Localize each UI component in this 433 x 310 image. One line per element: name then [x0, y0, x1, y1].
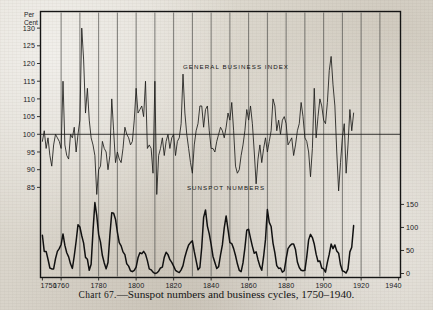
left-tick-label-115: 115 — [23, 77, 35, 86]
left-tick-label-120: 120 — [23, 59, 35, 68]
right-axis-ticks: 150100500 — [401, 200, 419, 278]
caption-chart-number: Chart 67. — [79, 290, 117, 300]
general-business-index-label: GENERAL BUSINESS INDEX — [183, 63, 289, 70]
general-business-index-line — [42, 28, 353, 194]
left-tick-label-85: 85 — [27, 183, 35, 192]
left-axis-title-line1: Per — [24, 11, 35, 18]
left-tick-label-105: 105 — [23, 112, 35, 121]
right-tick-label-50: 50 — [406, 246, 414, 255]
right-tick-label-0: 0 — [406, 269, 410, 278]
decadal-gridlines — [61, 13, 380, 277]
left-tick-label-100: 100 — [23, 130, 35, 139]
sunspot-numbers-line — [42, 203, 353, 274]
sunspot-numbers-label: SUNSPOT NUMBERS — [187, 184, 265, 191]
caption-dash: — — [117, 288, 128, 300]
left-tick-label-90: 90 — [27, 165, 35, 174]
plot-frame — [41, 12, 401, 278]
left-tick-label-125: 125 — [23, 41, 35, 50]
left-axis-title-line2: Cent — [24, 19, 38, 26]
chart-figure: 130125120115110105100959085 150100500 17… — [0, 0, 433, 310]
left-tick-label-95: 95 — [27, 148, 35, 157]
sunspot-business-cycles-chart: 130125120115110105100959085 150100500 17… — [0, 0, 433, 310]
left-axis-ticks: 130125120115110105100959085 — [23, 24, 41, 192]
right-tick-label-150: 150 — [406, 200, 418, 209]
caption-text: Sunspot numbers and business cycles, 175… — [128, 288, 355, 300]
figure-caption: Chart 67.—Sunspot numbers and business c… — [0, 288, 433, 300]
right-tick-label-100: 100 — [406, 223, 418, 232]
left-tick-label-110: 110 — [23, 95, 35, 104]
